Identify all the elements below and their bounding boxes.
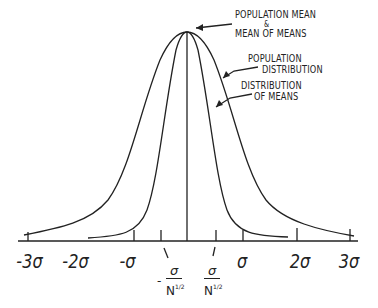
tick-label-neg3: -3σ [16, 251, 42, 271]
label-line: MEAN OF MEANS [235, 28, 307, 39]
denominator-base: N [166, 284, 175, 298]
label-line: POPULATION [248, 53, 302, 64]
tick-label-pos2: 2σ [290, 251, 311, 271]
label-line: DISTRIBUTION [262, 64, 323, 75]
tick-label-neg1: -σ [119, 251, 135, 271]
denominator-exponent: 1/2 [213, 283, 223, 290]
fraction-sign: - [157, 274, 161, 288]
label-distribution-of-means-2: OF MEANS [254, 91, 298, 102]
tick-label-pos1: σ [237, 251, 247, 271]
population-distribution-curve [24, 32, 354, 236]
label-population-mean: POPULATION MEAN [235, 9, 316, 20]
distribution-diagram: POPULATION MEAN & MEAN OF MEANS POPULATI… [0, 0, 378, 308]
label-population-distribution-2: DISTRIBUTION [262, 64, 323, 75]
label-distribution-of-means: DISTRIBUTION [241, 80, 302, 91]
arrow-neg-sem [164, 248, 168, 258]
label-line: OF MEANS [254, 91, 298, 102]
tick-label-neg2: -2σ [62, 251, 88, 271]
fraction-bar [204, 278, 220, 279]
fraction-bar [166, 278, 182, 279]
label-line: DISTRIBUTION [241, 80, 302, 91]
fraction-denominator: N1/2 [204, 280, 220, 298]
fraction-denominator: N1/2 [166, 280, 182, 298]
denominator-exponent: 1/2 [175, 283, 185, 290]
denominator-base: N [204, 284, 213, 298]
tick-label-pos3: 3σ [339, 251, 360, 271]
label-population-distribution: POPULATION [248, 53, 302, 64]
label-line: POPULATION MEAN [235, 9, 316, 20]
fraction-numerator: σ [166, 264, 182, 277]
fraction-numerator: σ [204, 264, 220, 277]
arrow-pos-sem [213, 247, 215, 256]
fraction-pos-sem: σ N1/2 [204, 264, 220, 298]
fraction-neg-sem: - σ N1/2 [166, 264, 182, 298]
diagram-graphics [0, 0, 378, 308]
label-mean-of-means: MEAN OF MEANS [235, 28, 307, 39]
